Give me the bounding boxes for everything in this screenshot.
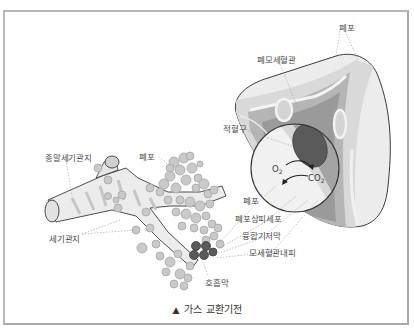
label-red-blood-cell: 적혈구 [223,122,246,134]
label-alveolus-top: 폐포 [339,21,355,33]
label-bronchiole: 세기관지 [49,232,80,244]
caption-text: 가스 교환기전 [184,304,241,315]
label-fused-basement-membrane: 융합기저막 [242,229,281,241]
figure-caption: ▲가스 교환기전 [0,301,414,316]
label-terminal-bronchiole: 종말세기관지 [45,151,92,163]
label-alveolus-cluster: 폐포 [139,150,155,162]
bronchial-tree [45,152,226,290]
label-capillary-endothelium: 모세혈관내피 [249,246,296,258]
triangle-marker-icon: ▲ [172,305,179,315]
label-pulmonary-capillary: 폐모세혈관 [257,53,296,65]
label-respiratory-membrane: 호흡막 [205,276,228,288]
label-alveolus-bottom: 폐포 [243,194,259,206]
label-alveolar-epithelium: 폐포상피세포 [235,212,282,224]
